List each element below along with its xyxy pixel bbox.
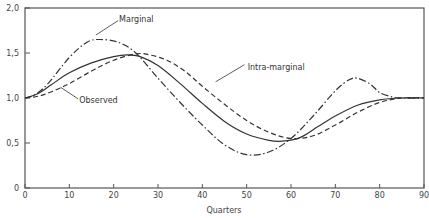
x-tick-label: 50 bbox=[242, 191, 252, 200]
line-chart: 010203040506070809000,51,01,52,0 Margina… bbox=[0, 0, 429, 218]
annotation-leader bbox=[216, 65, 245, 82]
y-tick-label: 0,5 bbox=[6, 139, 19, 148]
x-tick-label: 0 bbox=[22, 191, 27, 200]
y-tick-label: 1,0 bbox=[6, 94, 19, 103]
x-tick-label: 30 bbox=[153, 191, 163, 200]
annotation-intra-marginal: Intra-marginal bbox=[248, 63, 305, 72]
annotation-leader bbox=[60, 87, 78, 99]
y-tick-label: 0 bbox=[14, 184, 19, 193]
x-tick-label: 90 bbox=[419, 191, 429, 200]
annotation-leader bbox=[96, 21, 118, 35]
x-tick-label: 80 bbox=[375, 191, 385, 200]
x-axis-label: Quarters bbox=[206, 206, 241, 215]
axes: 010203040506070809000,51,01,52,0 bbox=[6, 4, 429, 200]
x-tick-label: 70 bbox=[330, 191, 340, 200]
x-tick-label: 20 bbox=[109, 191, 119, 200]
annotations: MarginalIntra-marginalObserved bbox=[60, 15, 304, 105]
y-tick-label: 2,0 bbox=[6, 4, 19, 13]
annotation-observed: Observed bbox=[79, 96, 118, 105]
x-tick-label: 40 bbox=[197, 191, 207, 200]
y-tick-label: 1,5 bbox=[6, 49, 19, 58]
x-tick-label: 60 bbox=[286, 191, 296, 200]
x-tick-label: 10 bbox=[64, 191, 74, 200]
annotation-marginal: Marginal bbox=[119, 15, 153, 24]
